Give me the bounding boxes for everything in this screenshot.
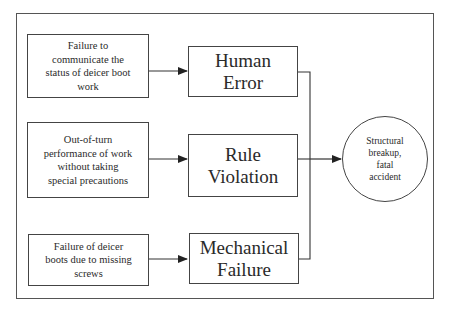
cause-box-communication-failure: Failure to communicate the status of dei… <box>27 34 149 98</box>
cause-box-deicer-boot-failure: Failure of deicer boots due to missing s… <box>28 234 149 286</box>
category-box-mechanical-failure: Mechanical Failure <box>189 233 299 284</box>
cause-label: Failure to communicate the status of dei… <box>46 39 131 93</box>
category-box-human-error: Human Error <box>188 46 298 97</box>
category-box-rule-violation: Rule Violation <box>188 134 298 197</box>
category-label: Rule Violation <box>208 144 279 188</box>
outcome-label: Structural breakup, fatal accident <box>366 135 403 183</box>
outcome-circle: Structural breakup, fatal accident <box>342 116 428 202</box>
cause-label: Failure of deicer boots due to missing s… <box>45 240 132 281</box>
cause-label: Out-of-turn performance of work without … <box>44 133 133 187</box>
cause-box-out-of-turn-work: Out-of-turn performance of work without … <box>27 122 149 198</box>
category-label: Human Error <box>215 50 271 94</box>
category-label: Mechanical Failure <box>200 237 289 281</box>
